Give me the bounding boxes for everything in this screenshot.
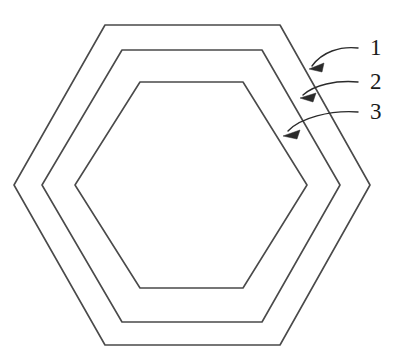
middle-hexagon <box>42 50 340 322</box>
arrowhead-3 <box>283 130 300 139</box>
inner-hexagon <box>75 82 307 288</box>
callout-label-1: 1 <box>370 35 382 60</box>
leader-line-2 <box>303 82 358 95</box>
arrowhead-2 <box>300 93 316 102</box>
callout-label-3: 3 <box>370 99 382 124</box>
callout-1: 1 <box>309 35 382 72</box>
technical-drawing-figure: 1 2 3 <box>0 0 407 363</box>
callout-2: 2 <box>300 69 382 102</box>
arrowhead-1 <box>309 63 324 72</box>
hexagon-diagram-svg: 1 2 3 <box>0 0 407 363</box>
callout-label-2: 2 <box>370 69 382 94</box>
leader-line-1 <box>312 48 358 66</box>
outer-hexagon <box>14 25 370 345</box>
